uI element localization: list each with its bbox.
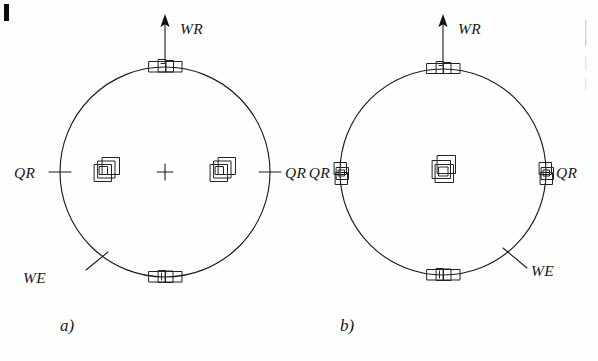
we-tick-b — [503, 248, 527, 268]
square-cluster-center-b — [433, 156, 456, 183]
label-qr-right-b: QR — [556, 164, 577, 181]
square-cluster-interior-left-a — [95, 158, 120, 182]
circle-outline-b — [340, 69, 546, 275]
page-edge-artifact-faint-3 — [585, 78, 586, 90]
figure-container: WR QR QR WE a) — [0, 0, 598, 361]
page-edge-artifact-faint-1 — [585, 20, 586, 46]
panel-b: WR QR QR WE b) — [309, 14, 578, 335]
label-qr-left-b: QR — [309, 164, 330, 181]
label-wr-b: WR — [458, 20, 481, 37]
square-cluster-rim-left-b — [335, 163, 349, 185]
caption-b: b) — [340, 316, 355, 335]
label-we-b: WE — [531, 262, 554, 279]
panel-a: WR QR QR WE a) — [14, 14, 306, 335]
label-we-a: WE — [23, 269, 46, 286]
center-plus-marker-a — [157, 164, 173, 180]
bracket-marker-top-b — [427, 62, 460, 74]
caption-a: a) — [60, 316, 75, 335]
page-edge-artifact-faint-2 — [585, 56, 586, 70]
wr-arrow-b — [438, 14, 447, 64]
label-qr-left-a: QR — [14, 164, 35, 181]
label-wr-a: WR — [180, 20, 203, 37]
bracket-marker-top-a — [149, 60, 182, 73]
label-qr-right-a: QR — [285, 164, 306, 181]
square-cluster-interior-right-a — [211, 158, 236, 182]
wr-arrow-a — [160, 14, 169, 62]
we-tick-a — [86, 252, 108, 270]
technical-diagram-svg: WR QR QR WE a) — [0, 0, 598, 361]
page-edge-artifact-bar — [4, 4, 9, 21]
